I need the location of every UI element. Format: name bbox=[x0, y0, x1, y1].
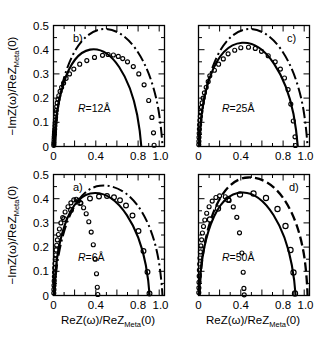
svg-text:0.5: 0.5 bbox=[33, 20, 49, 32]
cole-cole-impedance-figure: b) R=12Å bbox=[0, 0, 333, 346]
svg-text:0.4: 0.4 bbox=[33, 193, 50, 205]
svg-text:0.8: 0.8 bbox=[130, 299, 146, 311]
svg-text:1.0: 1.0 bbox=[153, 150, 169, 162]
panel-d-letter: d) bbox=[289, 181, 299, 193]
svg-text:1.0: 1.0 bbox=[298, 150, 314, 162]
panel-b-r-label: R=12Å bbox=[78, 102, 110, 114]
panel-a-r-label: R=6Å bbox=[78, 251, 105, 263]
svg-text:0.4: 0.4 bbox=[233, 150, 250, 162]
svg-text:0.4: 0.4 bbox=[88, 150, 105, 162]
svg-text:0.4: 0.4 bbox=[88, 299, 105, 311]
svg-text:0.2: 0.2 bbox=[33, 241, 49, 253]
svg-text:1.0: 1.0 bbox=[298, 299, 314, 311]
svg-text:0.8: 0.8 bbox=[275, 299, 291, 311]
svg-text:0: 0 bbox=[195, 150, 201, 162]
panel-c-r-label: R=25Å bbox=[222, 102, 254, 114]
svg-text:0.4: 0.4 bbox=[233, 299, 250, 311]
panel-b-letter: b) bbox=[73, 32, 83, 44]
svg-text:1.0: 1.0 bbox=[153, 299, 169, 311]
svg-text:0.1: 0.1 bbox=[33, 265, 49, 277]
svg-text:0.8: 0.8 bbox=[275, 150, 291, 162]
svg-text:0.3: 0.3 bbox=[33, 68, 49, 80]
figure-container: b) R=12Å bbox=[0, 0, 333, 346]
svg-text:0.2: 0.2 bbox=[33, 92, 49, 104]
svg-text:0: 0 bbox=[195, 299, 201, 311]
panel-c-letter: c) bbox=[287, 32, 296, 44]
svg-text:0.4: 0.4 bbox=[33, 44, 50, 56]
svg-text:0.1: 0.1 bbox=[33, 116, 49, 128]
panel-d-r-label: R=50Å bbox=[222, 251, 254, 263]
svg-text:0: 0 bbox=[43, 290, 49, 302]
svg-text:0: 0 bbox=[50, 299, 56, 311]
panel-a-letter: a) bbox=[73, 181, 83, 193]
svg-text:0: 0 bbox=[50, 150, 56, 162]
svg-text:0.3: 0.3 bbox=[33, 217, 49, 229]
svg-text:0: 0 bbox=[43, 141, 49, 153]
svg-text:0.5: 0.5 bbox=[33, 169, 49, 181]
svg-text:0.8: 0.8 bbox=[130, 150, 146, 162]
